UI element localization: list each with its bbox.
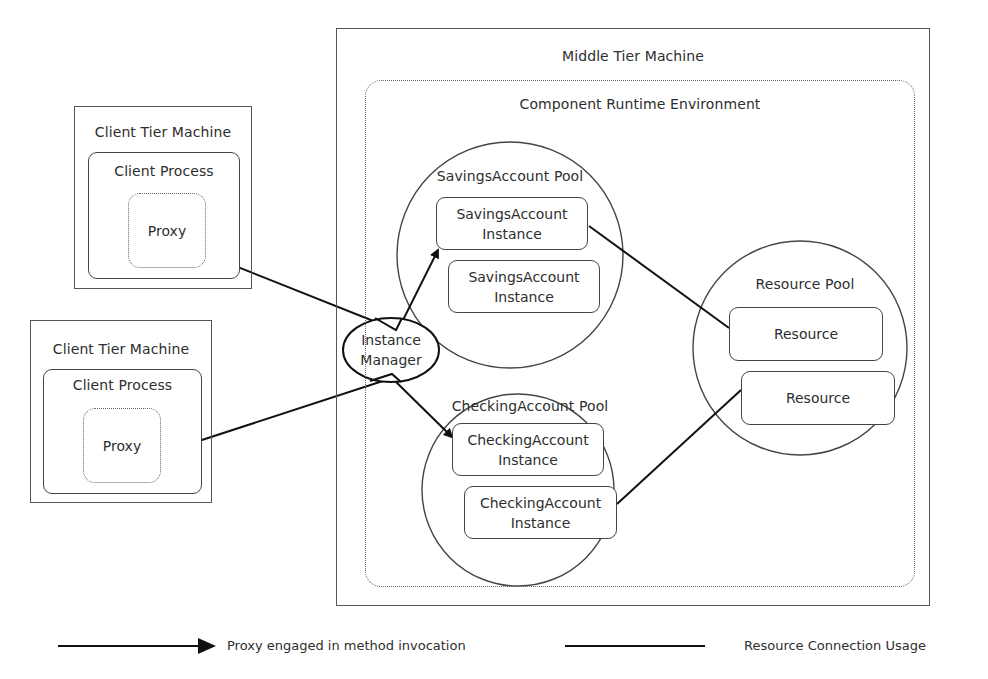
savings-instance-1: SavingsAccount Instance bbox=[436, 197, 588, 250]
runtime-title: Component Runtime Environment bbox=[365, 95, 915, 113]
checking-instance-1: CheckingAccount Instance bbox=[452, 423, 604, 476]
savings-instance-1-line1: SavingsAccount bbox=[456, 204, 567, 224]
client-2-process-title: Client Process bbox=[43, 376, 202, 394]
savings-pool-title: SavingsAccount Pool bbox=[420, 167, 600, 185]
proxy-2-label: Proxy bbox=[103, 436, 141, 456]
savings-instance-2: SavingsAccount Instance bbox=[448, 260, 600, 313]
proxy-2: Proxy bbox=[83, 408, 161, 483]
resource-1: Resource bbox=[729, 307, 883, 361]
resource-2-label: Resource bbox=[786, 388, 850, 408]
checking-instance-2-line2: Instance bbox=[511, 513, 571, 533]
instance-manager-line2: Manager bbox=[360, 350, 421, 370]
savings-instance-2-line1: SavingsAccount bbox=[468, 267, 579, 287]
checking-instance-1-line2: Instance bbox=[498, 450, 558, 470]
client-1-machine-title: Client Tier Machine bbox=[74, 123, 252, 141]
checking-instance-2-line1: CheckingAccount bbox=[480, 493, 601, 513]
client-2-machine-title: Client Tier Machine bbox=[30, 340, 212, 358]
proxy-1: Proxy bbox=[128, 193, 206, 268]
proxy-1-label: Proxy bbox=[148, 221, 186, 241]
checking-pool-title: CheckingAccount Pool bbox=[445, 397, 615, 415]
legend-arrow-head bbox=[198, 638, 216, 654]
legend-line-label: Resource Connection Usage bbox=[744, 638, 926, 653]
middle-tier-title: Middle Tier Machine bbox=[336, 47, 930, 65]
instance-manager-line1: Instance bbox=[361, 330, 421, 350]
resource-2: Resource bbox=[741, 371, 895, 425]
instance-manager: Instance Manager bbox=[343, 328, 439, 372]
savings-instance-2-line2: Instance bbox=[494, 287, 554, 307]
checking-instance-1-line1: CheckingAccount bbox=[467, 430, 588, 450]
client-1-process-title: Client Process bbox=[88, 162, 240, 180]
checking-instance-2: CheckingAccount Instance bbox=[464, 486, 617, 539]
savings-instance-1-line2: Instance bbox=[482, 224, 542, 244]
resource-1-label: Resource bbox=[774, 324, 838, 344]
legend-arrow-label: Proxy engaged in method invocation bbox=[227, 638, 466, 653]
resource-pool-title: Resource Pool bbox=[740, 275, 870, 293]
